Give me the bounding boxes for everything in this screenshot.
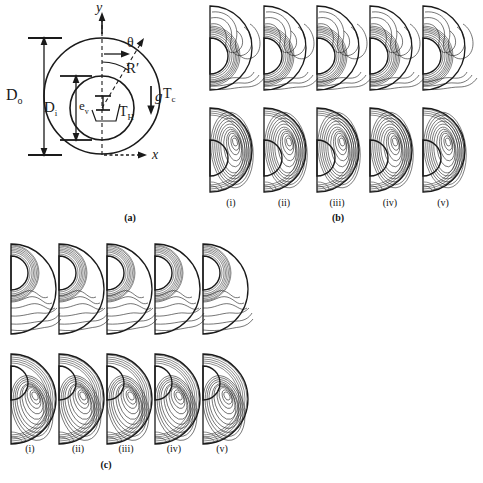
ev-subscript: v <box>85 107 89 116</box>
gravity-arrowhead <box>147 106 154 116</box>
panel-b-column-label-3: (iv) <box>367 197 413 208</box>
panel-b-column-label-2: (iii) <box>314 197 360 208</box>
th-subscript: H <box>128 112 135 122</box>
th-symbol: T <box>119 104 128 119</box>
label-cold-temperature: Tc <box>163 86 176 104</box>
panel-b-row-isotherms <box>210 6 477 90</box>
panel-a-caption: (a) <box>100 212 160 223</box>
panel-c-caption: (c) <box>76 459 136 470</box>
di-symbol: D <box>44 99 55 115</box>
do-subscript: o <box>18 95 23 106</box>
radius-arrowhead <box>137 38 144 47</box>
label-outer-diameter: Do <box>6 86 23 106</box>
theta-angle-arc <box>102 62 128 70</box>
panel-c-row-isotherms <box>11 244 253 334</box>
label-axis-x: x <box>152 147 158 163</box>
ev-bracket <box>92 104 120 121</box>
tc-symbol: T <box>163 86 172 101</box>
panel-a-schematic: Do Di ev TH Tc R′ θ g x y <box>0 0 200 230</box>
label-inner-diameter: Di <box>44 99 57 118</box>
panel-b-column-label-0: (i) <box>208 197 254 208</box>
panel-c: (i) (ii) (iii) (iv) (v) (c) <box>0 238 250 483</box>
label-gravity: g <box>155 88 163 105</box>
theta-arrowhead <box>121 51 130 58</box>
panel-c-column-label-3: (iv) <box>152 443 196 454</box>
label-hot-temperature: TH <box>119 104 134 122</box>
panel-b: (i) (ii) (iii) (iv) (v) (b) <box>200 0 483 230</box>
do-symbol: D <box>6 86 18 103</box>
x-axis-arrowhead <box>138 152 147 159</box>
panel-b-column-label-4: (v) <box>420 197 466 208</box>
di-subscript: i <box>55 108 58 118</box>
panel-b-row-streamlines <box>207 108 470 192</box>
label-eccentricity: ev <box>79 98 89 116</box>
panel-c-column-label-4: (v) <box>200 443 244 454</box>
figure-canvas: Do Di ev TH Tc R′ θ g x y (a) <box>0 0 483 483</box>
tc-subscript: c <box>172 94 176 104</box>
label-axis-y: y <box>96 0 102 16</box>
label-radius: R′ <box>126 60 139 77</box>
panel-b-caption: (b) <box>308 212 368 223</box>
panel-b-column-label-1: (ii) <box>261 197 307 208</box>
panel-c-column-label-0: (i) <box>8 443 52 454</box>
panel-c-column-label-1: (ii) <box>56 443 100 454</box>
panel-c-column-label-2: (iii) <box>104 443 148 454</box>
panel-c-row-streamlines <box>5 354 252 445</box>
label-theta: θ <box>127 35 134 51</box>
